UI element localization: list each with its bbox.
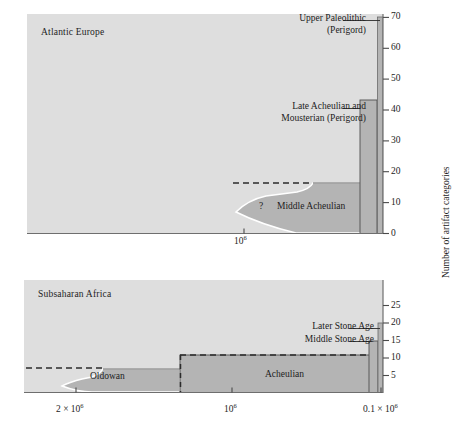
bar-upper-paleolithic: [378, 17, 384, 234]
bottom-ytick-15: 15: [391, 335, 401, 345]
top-ytick-50: 50: [391, 73, 401, 83]
bottom-xtick-1-exponent: 6: [234, 402, 237, 409]
bottom-xtick-0-mantissa: 2 × 10: [56, 404, 80, 414]
chart-canvas: [0, 0, 458, 428]
label-acheulian: Acheulian: [265, 369, 304, 379]
top-xtick-mantissa: 10: [234, 236, 244, 246]
top-y-ticks: [383, 17, 389, 233]
top-ytick-60: 60: [391, 42, 401, 52]
bottom-ytick-25: 25: [391, 300, 401, 310]
bottom-xtick-2-mantissa: 0.1 × 10: [363, 404, 394, 414]
panel-title-bottom: Subsaharan Africa: [38, 289, 111, 299]
callout-upper-paleolithic: Upper Paleolithic (Perigord): [299, 13, 366, 36]
bottom-ytick-20: 20: [391, 317, 401, 327]
top-ytick-30: 30: [391, 135, 401, 145]
bottom-xtick-label-01e6: 0.1 × 106: [363, 404, 398, 414]
callout-upper-paleolithic-line2: (Perigord): [327, 25, 366, 35]
callout-late-acheulian-line1: Late Acheulian and: [292, 101, 366, 111]
top-ytick-20: 20: [391, 166, 401, 176]
y-axis-label: Number of artifact categories: [441, 166, 451, 278]
label-middle-acheulian: Middle Acheulian: [277, 201, 345, 211]
top-xtick-exponent: 6: [244, 234, 247, 241]
bottom-ytick-5: 5: [391, 370, 396, 380]
callout-middle-stone-age: Middle Stone Age: [305, 334, 374, 346]
bottom-xtick-label-2e6: 2 × 106: [56, 404, 84, 414]
panel-title-top: Atlantic Europe: [41, 27, 104, 37]
bar-later-stone-age: [378, 323, 383, 393]
callout-late-acheulian: Late Acheulian and Mousterian (Perigord): [281, 101, 366, 124]
bottom-y-ticks: [383, 306, 389, 376]
bar-middle-stone-age: [369, 341, 378, 393]
figure-artifact-categories: Atlantic Europe Subsaharan Africa Upper …: [0, 0, 458, 428]
top-ytick-0: 0: [391, 228, 396, 238]
top-ytick-10: 10: [391, 197, 401, 207]
bottom-xtick-1-mantissa: 10: [224, 404, 234, 414]
callout-later-stone-age: Later Stone Age: [312, 321, 374, 333]
annotation-question-mark: ?: [259, 201, 263, 211]
bottom-xtick-2-exponent: 6: [394, 402, 397, 409]
label-oldowan: Oldowan: [90, 371, 125, 381]
bottom-xtick-label-1e6: 106: [224, 404, 237, 414]
bottom-ytick-10: 10: [391, 352, 401, 362]
top-xtick-label-1e6: 106: [234, 236, 247, 246]
bottom-xtick-0-exponent: 6: [80, 402, 83, 409]
top-ytick-40: 40: [391, 104, 401, 114]
callout-late-acheulian-line2: Mousterian (Perigord): [281, 113, 366, 123]
callout-upper-paleolithic-line1: Upper Paleolithic: [299, 13, 366, 23]
top-ytick-70: 70: [391, 11, 401, 21]
